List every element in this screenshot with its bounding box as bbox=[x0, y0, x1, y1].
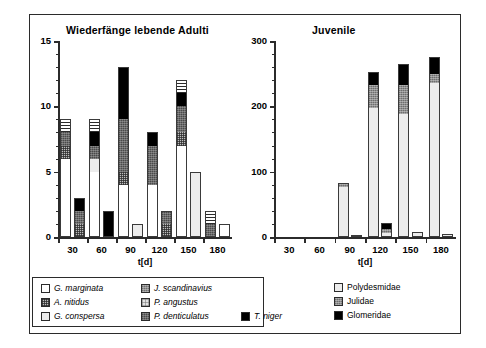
y-tick-minor bbox=[272, 198, 275, 199]
y-tick-minor bbox=[272, 132, 275, 133]
bar-segment bbox=[429, 57, 440, 74]
legend-adults: G. marginataA. nitidusG. conspersaJ. sca… bbox=[32, 277, 264, 327]
y-tick-minor bbox=[272, 159, 275, 160]
legend-label: Polydesmidae bbox=[347, 282, 400, 292]
bar-150-2 bbox=[190, 172, 201, 237]
bar-segment bbox=[74, 224, 85, 237]
x-tick bbox=[145, 239, 147, 243]
bar-segment bbox=[176, 132, 187, 145]
bar-segment bbox=[89, 172, 100, 237]
legend-label: P. denticulatus bbox=[154, 311, 209, 321]
legend-swatch bbox=[141, 312, 150, 321]
x-tick bbox=[335, 239, 337, 243]
legend-item-t-niger: T. niger bbox=[241, 311, 282, 321]
legend-swatch bbox=[334, 283, 343, 292]
legend-item-g-conspersa: G. conspersa bbox=[41, 311, 105, 321]
x-axis-title: t[d] bbox=[340, 257, 390, 267]
bar-segment bbox=[89, 159, 100, 172]
y-tick-major bbox=[54, 106, 59, 108]
bar-120-2 bbox=[161, 211, 172, 237]
legend-item-p-denticulatus: P. denticulatus bbox=[141, 311, 209, 321]
bar-segment bbox=[442, 234, 453, 237]
bar-150-1 bbox=[176, 80, 187, 237]
bar-150-2 bbox=[412, 232, 423, 237]
y-tick-minor bbox=[56, 146, 59, 147]
figure-panel: Wiederfänge lebende Adulti Juvenile 0510… bbox=[29, 14, 461, 334]
legend-item-julidae: Julidae bbox=[334, 296, 374, 306]
legend-item-glomeridae: Glomeridae bbox=[334, 310, 391, 320]
bar-180-2 bbox=[219, 185, 230, 237]
bar-60-2 bbox=[103, 211, 114, 237]
y-tick-label: 10 bbox=[11, 100, 51, 111]
bar-segment bbox=[368, 108, 379, 237]
bar-segment bbox=[381, 223, 392, 230]
x-tick bbox=[426, 239, 428, 243]
legend-item-j-scandinavius: J. scandinavius bbox=[141, 283, 212, 293]
y-tick-minor bbox=[272, 224, 275, 225]
bar-segment bbox=[161, 224, 172, 237]
legend-swatch bbox=[41, 298, 50, 307]
y-tick-minor bbox=[56, 224, 59, 225]
bar-segment bbox=[176, 106, 187, 132]
y-tick-minor bbox=[272, 146, 275, 147]
bar-90-1 bbox=[118, 67, 129, 237]
bar-segment bbox=[338, 183, 349, 187]
y-tick-major bbox=[54, 172, 59, 174]
bar-segment bbox=[147, 132, 158, 145]
bar-segment bbox=[118, 119, 129, 171]
bar-90-1 bbox=[338, 183, 349, 237]
bar-segment bbox=[381, 229, 392, 233]
bar-segment bbox=[74, 211, 85, 224]
x-tick bbox=[365, 239, 367, 243]
bar-segment bbox=[161, 211, 172, 224]
legend-swatch bbox=[334, 297, 343, 306]
y-tick-minor bbox=[56, 93, 59, 94]
y-tick-minor bbox=[56, 211, 59, 212]
chart-adults: 051015306090120150180t[d] bbox=[32, 41, 232, 271]
bar-segment bbox=[351, 235, 362, 237]
bar-90-2 bbox=[351, 236, 362, 237]
y-tick-minor bbox=[56, 80, 59, 81]
bar-segment bbox=[118, 67, 129, 119]
y-tick-major bbox=[270, 106, 275, 108]
bar-segment bbox=[60, 119, 71, 132]
y-tick-minor bbox=[56, 67, 59, 68]
legend-item-polydesmidae: Polydesmidae bbox=[334, 282, 400, 292]
y-tick-minor bbox=[272, 80, 275, 81]
legend-swatch bbox=[334, 311, 343, 320]
x-tick bbox=[395, 239, 397, 243]
legend-swatch bbox=[41, 312, 50, 321]
legend-label: P. angustus bbox=[154, 297, 198, 307]
x-tick-label: 180 bbox=[198, 244, 238, 255]
legend-swatch bbox=[141, 284, 150, 293]
x-tick bbox=[203, 239, 205, 243]
bar-60-1 bbox=[89, 119, 100, 237]
y-tick-label: 0 bbox=[227, 231, 267, 242]
bar-segment bbox=[147, 146, 158, 185]
legend-label: T. niger bbox=[254, 311, 282, 321]
y-tick-minor bbox=[272, 93, 275, 94]
bar-segment bbox=[60, 146, 71, 159]
y-tick-minor bbox=[56, 132, 59, 133]
bar-90-2 bbox=[132, 224, 143, 237]
legend-item-a-nitidus: A. nitidus bbox=[41, 297, 89, 307]
legend-swatch bbox=[41, 284, 50, 293]
legend-label: J. scandinavius bbox=[154, 283, 212, 293]
x-tick-label: 180 bbox=[421, 244, 461, 255]
legend-label: G. marginata bbox=[54, 283, 103, 293]
bar-segment bbox=[103, 211, 114, 237]
bar-30-2 bbox=[74, 198, 85, 237]
bar-segment bbox=[118, 172, 129, 185]
legend-item-g-marginata: G. marginata bbox=[41, 283, 103, 293]
y-tick-label: 15 bbox=[11, 35, 51, 46]
legend-item-p-angustus: P. angustus bbox=[141, 297, 198, 307]
y-axis bbox=[274, 41, 276, 238]
chart-juvenile: 0100200300306090120150180t[d] bbox=[242, 41, 456, 271]
bar-segment bbox=[176, 80, 187, 93]
bar-segment bbox=[74, 198, 85, 211]
y-tick-minor bbox=[272, 67, 275, 68]
bar-segment bbox=[176, 93, 187, 106]
y-tick-minor bbox=[272, 119, 275, 120]
bar-180-2 bbox=[442, 234, 453, 237]
legend-label: A. nitidus bbox=[54, 297, 89, 307]
